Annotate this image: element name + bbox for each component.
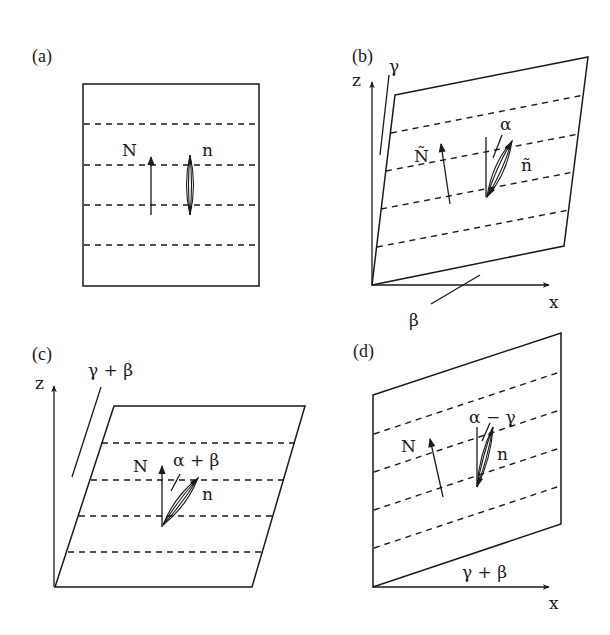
director-label: n xyxy=(497,444,508,464)
gamma-beta-label: γ + β xyxy=(462,562,507,582)
layer-lines xyxy=(374,372,560,548)
gamma-label: γ xyxy=(389,56,399,76)
alpha-indicator xyxy=(493,135,502,158)
panel-c: (c) z γ + β N α + β n xyxy=(32,344,305,587)
gamma-indicator xyxy=(380,75,389,155)
layer-lines xyxy=(84,124,258,245)
director-lens-icon xyxy=(163,478,198,525)
beta-indicator xyxy=(431,275,480,304)
figure-canvas: (a) N n (b) z x γ β xyxy=(0,0,610,635)
vector-label: Ñ xyxy=(414,146,429,166)
plane-outline xyxy=(372,57,588,285)
director-label: n xyxy=(202,484,213,504)
gamma-beta-label: γ + β xyxy=(88,360,133,380)
vector-n-tilde-arrow-icon xyxy=(441,144,450,204)
alpha-beta-label: α + β xyxy=(173,450,219,470)
panel-b-label: (b) xyxy=(352,46,373,67)
plane-outline xyxy=(373,333,561,587)
beta-label: β xyxy=(409,310,419,330)
panel-b: (b) z x γ β Ñ α ñ xyxy=(352,46,588,330)
panel-d: (d) x γ + β N α − γ n xyxy=(353,333,561,613)
gamma-beta-indicator xyxy=(72,387,101,477)
x-axis-label: x xyxy=(549,292,559,312)
plane-outline xyxy=(83,84,259,286)
director-label: ñ xyxy=(521,155,532,175)
panel-c-label: (c) xyxy=(32,344,52,365)
vector-label: N xyxy=(401,436,416,456)
x-axis-label: x xyxy=(549,593,559,613)
alpha-gamma-label: α − γ xyxy=(469,407,516,427)
panel-a-label: (a) xyxy=(32,46,52,67)
alpha-label: α xyxy=(500,114,512,134)
director-label: n xyxy=(202,140,213,160)
vector-n-arrow-icon xyxy=(430,439,443,497)
director-lens-icon xyxy=(477,427,493,487)
panel-d-label: (d) xyxy=(353,341,374,362)
vector-label: N xyxy=(133,456,148,476)
vector-label: N xyxy=(122,140,137,160)
alpha-beta-indicator xyxy=(171,474,180,491)
layer-lines xyxy=(377,95,584,247)
z-axis-label: z xyxy=(352,70,361,90)
director-lens-icon xyxy=(187,155,194,215)
panel-a: (a) N n xyxy=(32,46,259,286)
z-axis-label: z xyxy=(35,373,44,393)
